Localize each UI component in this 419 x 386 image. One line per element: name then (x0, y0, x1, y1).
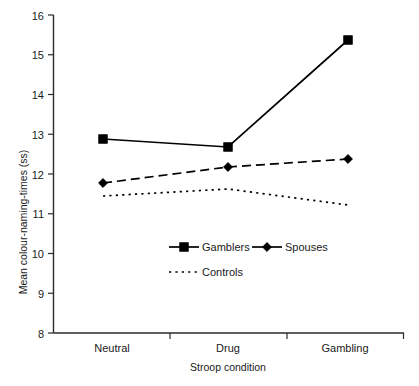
line-chart: 16 15 14 13 12 11 10 9 8 Neutral Drug Ga… (0, 0, 419, 386)
legend-label-gamblers: Gamblers (202, 241, 250, 253)
x-tick-label-neutral: Neutral (94, 342, 129, 354)
x-axis-title: Stroop condition (190, 361, 266, 373)
y-tick-label-11: 11 (33, 208, 44, 220)
y-axis-ticks (48, 15, 54, 333)
series-line-gamblers (103, 40, 348, 147)
chart-figure: 16 15 14 13 12 11 10 9 8 Neutral Drug Ga… (0, 0, 419, 386)
chart-legend: Gamblers Spouses Controls (169, 241, 328, 278)
x-axis-ticks (170, 333, 404, 339)
y-axis-title: Mean colour-naming-times (ss) (17, 150, 29, 295)
series-line-spouses (103, 159, 348, 183)
x-tick-label-gambling: Gambling (321, 342, 368, 354)
legend-label-spouses: Spouses (285, 241, 328, 253)
y-tick-label-15: 15 (32, 49, 44, 61)
series-markers-spouses (99, 155, 353, 188)
series-line-controls (103, 189, 348, 205)
y-tick-label-9: 9 (38, 288, 44, 300)
y-tick-label-14: 14 (32, 89, 44, 101)
y-tick-label-16: 16 (32, 10, 44, 22)
y-tick-label-8: 8 (38, 328, 44, 340)
x-tick-label-drug: Drug (216, 342, 240, 354)
legend-marker-square-icon (180, 243, 188, 251)
y-tick-label-10: 10 (32, 248, 44, 260)
series-markers-gamblers (99, 36, 352, 151)
y-tick-label-13: 13 (32, 129, 44, 141)
legend-label-controls: Controls (202, 266, 243, 278)
y-tick-label-12: 12 (32, 169, 44, 181)
legend-marker-diamond-icon (263, 243, 272, 252)
